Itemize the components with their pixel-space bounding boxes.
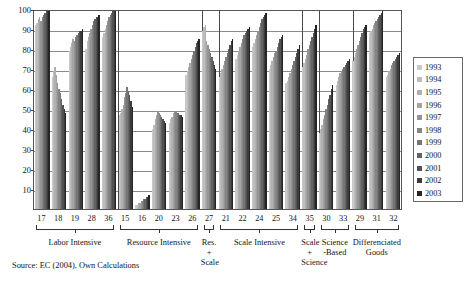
bar-cluster[interactable]	[251, 11, 268, 209]
y-tick-mark	[31, 10, 34, 11]
bar-cluster[interactable]	[268, 11, 285, 209]
legend-label: 2003	[425, 189, 441, 198]
bar-cluster[interactable]	[101, 11, 118, 209]
y-tick-label: 10	[3, 186, 31, 195]
brace-right-tick	[398, 225, 399, 230]
y-axis: 100908070605040302010	[0, 0, 31, 220]
legend-label: 2000	[425, 151, 441, 160]
bar-cluster[interactable]	[234, 11, 251, 209]
y-tick-mark	[31, 110, 34, 111]
group-name: Scale + Science	[301, 238, 318, 268]
bar[interactable]	[282, 35, 283, 209]
legend-label: 2001	[425, 164, 441, 173]
bar[interactable]	[48, 10, 49, 209]
bar[interactable]	[349, 59, 350, 209]
bar-cluster[interactable]	[51, 11, 68, 209]
x-tick-label: 18	[50, 213, 67, 225]
bar[interactable]	[165, 123, 166, 209]
brace-left-tick	[220, 225, 221, 230]
bar[interactable]	[198, 39, 199, 209]
bar-cluster[interactable]	[318, 11, 335, 209]
bar[interactable]	[98, 15, 99, 209]
plot-area	[33, 10, 402, 210]
group-brace	[352, 225, 402, 237]
bar-cluster[interactable]	[67, 11, 84, 209]
y-tick-label: 90	[3, 26, 31, 35]
brace-right-tick	[197, 225, 198, 230]
bar[interactable]	[249, 27, 250, 209]
bar[interactable]	[115, 10, 116, 209]
x-tick-label: 25	[268, 213, 285, 225]
brace-center-tick	[75, 229, 76, 233]
brace-left-tick	[304, 225, 305, 230]
legend-item[interactable]: 1994	[417, 74, 460, 87]
y-tick-mark	[31, 90, 34, 91]
bar-cluster[interactable]	[184, 11, 201, 209]
legend-item[interactable]: 1998	[417, 124, 460, 137]
x-axis-labels: 1718192836151620232627212224253435303329…	[33, 213, 402, 225]
bar[interactable]	[315, 25, 316, 209]
brace-center-tick	[310, 229, 311, 233]
bar-cluster[interactable]	[368, 11, 385, 209]
brace-center-tick	[335, 229, 336, 233]
y-tick-mark	[31, 130, 34, 131]
bar[interactable]	[332, 85, 333, 209]
bar[interactable]	[299, 45, 300, 209]
legend-label: 1999	[425, 138, 441, 147]
bar-cluster[interactable]	[301, 11, 318, 209]
legend-item[interactable]: 2001	[417, 162, 460, 175]
legend-item[interactable]: 2000	[417, 149, 460, 162]
x-tick-label: 31	[368, 213, 385, 225]
y-tick-label: 50	[3, 106, 31, 115]
group-brace	[33, 225, 117, 237]
bar-cluster[interactable]	[351, 11, 368, 209]
brace-right-tick	[314, 225, 315, 230]
bar[interactable]	[65, 113, 66, 209]
legend-item[interactable]: 1993	[417, 61, 460, 74]
bar-cluster[interactable]	[84, 11, 101, 209]
brace-center-tick	[159, 229, 160, 233]
y-tick-label: 40	[3, 126, 31, 135]
bar[interactable]	[148, 195, 149, 209]
bar[interactable]	[382, 11, 383, 209]
x-tick-label: 22	[234, 213, 251, 225]
bar-cluster[interactable]	[117, 11, 134, 209]
bar-cluster[interactable]	[218, 11, 235, 209]
legend-item[interactable]: 1997	[417, 111, 460, 124]
bar-cluster[interactable]	[151, 11, 168, 209]
group-brace	[117, 225, 201, 237]
group-braces	[33, 225, 402, 239]
legend-item[interactable]: 1995	[417, 86, 460, 99]
legend-item[interactable]: 2003	[417, 187, 460, 200]
legend-item[interactable]: 2002	[417, 174, 460, 187]
bar[interactable]	[132, 107, 133, 209]
legend-item[interactable]: 1996	[417, 99, 460, 112]
legend: 1993199419951996199719981999200020012002…	[413, 57, 463, 202]
y-tick-mark	[31, 50, 34, 51]
bar-cluster[interactable]	[201, 11, 218, 209]
bar[interactable]	[215, 69, 216, 209]
brace-left-tick	[36, 225, 37, 230]
legend-item[interactable]: 1999	[417, 137, 460, 150]
bar[interactable]	[365, 25, 366, 209]
bar[interactable]	[232, 39, 233, 209]
group-brace	[201, 225, 218, 237]
brace-right-tick	[213, 225, 214, 230]
bar-cluster[interactable]	[168, 11, 185, 209]
bar-cluster[interactable]	[34, 11, 51, 209]
bar-cluster[interactable]	[384, 11, 401, 209]
brace-right-tick	[113, 225, 114, 230]
x-tick-label: 29	[352, 213, 369, 225]
bar-cluster[interactable]	[134, 11, 151, 209]
bar-cluster[interactable]	[334, 11, 351, 209]
x-tick-label: 36	[100, 213, 117, 225]
bar[interactable]	[182, 117, 183, 209]
bar-cluster[interactable]	[284, 11, 301, 209]
bar[interactable]	[82, 29, 83, 209]
bar[interactable]	[265, 13, 266, 209]
bar[interactable]	[399, 53, 400, 209]
legend-label: 1998	[425, 126, 441, 135]
x-tick-label: 35	[301, 213, 318, 225]
legend-swatch-icon	[417, 77, 422, 82]
legend-swatch-icon	[417, 90, 422, 95]
